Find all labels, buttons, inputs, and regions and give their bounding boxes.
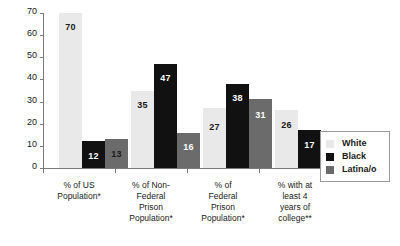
legend-item-white[interactable]: White xyxy=(326,137,383,150)
x-tick-mark xyxy=(115,169,116,173)
x-tick-mark xyxy=(259,169,260,173)
bar-value-white: 35 xyxy=(131,101,154,110)
cat-line: Federal xyxy=(188,191,258,202)
plot-area: 70 12 13 35 47 16 27 38 31 26 xyxy=(43,13,330,168)
y-tick-label: 30 xyxy=(27,96,37,105)
cat-line: % of Non- xyxy=(116,180,186,191)
x-category-label-non-federal-prison: % of Non- Federal Prison Population* xyxy=(116,180,186,224)
bar-group-non-federal-prison: 35 47 16 xyxy=(131,13,200,168)
cat-line: % of xyxy=(188,180,258,191)
x-tick-mark xyxy=(43,169,44,173)
bar-value-black: 38 xyxy=(226,94,249,103)
white-swatch-icon xyxy=(326,140,334,148)
y-tick-label: 0 xyxy=(32,162,37,171)
bar-value-white: 26 xyxy=(275,121,298,130)
bar-white[interactable] xyxy=(59,13,82,168)
y-tick-label: 50 xyxy=(27,51,37,60)
cat-line: Prison xyxy=(188,202,258,213)
legend-label: Latina/o xyxy=(342,165,377,174)
cat-line: least 4 xyxy=(260,191,330,202)
bar-value-latino: 31 xyxy=(249,111,272,120)
cat-line: Population* xyxy=(188,213,258,224)
x-category-label-federal-prison: % of Federal Prison Population* xyxy=(188,180,258,224)
bar-value-white: 70 xyxy=(59,23,82,32)
bar-white[interactable] xyxy=(203,108,226,168)
bar-group-federal-prison: 27 38 31 xyxy=(203,13,272,168)
cat-line: Population* xyxy=(116,213,186,224)
legend-label: Black xyxy=(342,152,366,161)
x-category-label-college: % with at least 4 years of college** xyxy=(260,180,330,224)
y-tick-label: 70 xyxy=(27,7,37,16)
cat-line: Prison xyxy=(116,202,186,213)
bar-value-black: 12 xyxy=(82,152,105,161)
legend-item-latino[interactable]: Latina/o xyxy=(326,163,383,176)
bar-value-latino: 13 xyxy=(105,150,128,159)
legend-item-black[interactable]: Black xyxy=(326,150,383,163)
bar-value-black: 47 xyxy=(154,74,177,83)
y-tick-label: 60 xyxy=(27,29,37,38)
legend-label: White xyxy=(342,139,367,148)
black-swatch-icon xyxy=(326,153,334,161)
cat-line: Federal xyxy=(116,191,186,202)
cat-line: Population* xyxy=(44,191,114,202)
bar-value-latino: 16 xyxy=(177,143,200,152)
cat-line: years of xyxy=(260,202,330,213)
bar-chart: 70 60 50 40 30 20 10 0 70 12 1 xyxy=(0,0,400,246)
bar-group-us-population: 70 12 13 xyxy=(59,13,128,168)
x-category-label-us-population: % of US Population* xyxy=(44,180,114,202)
y-tick-label: 40 xyxy=(27,73,37,82)
cat-line: college** xyxy=(260,213,330,224)
bar-value-white: 27 xyxy=(203,123,226,132)
y-tick-label: 10 xyxy=(27,140,37,149)
cat-line: % of US xyxy=(44,180,114,191)
x-tick-mark xyxy=(187,169,188,173)
bar-value-black: 17 xyxy=(298,141,321,150)
y-tick-label: 20 xyxy=(27,118,37,127)
latino-swatch-icon xyxy=(326,166,334,174)
legend: White Black Latina/o xyxy=(320,131,390,182)
